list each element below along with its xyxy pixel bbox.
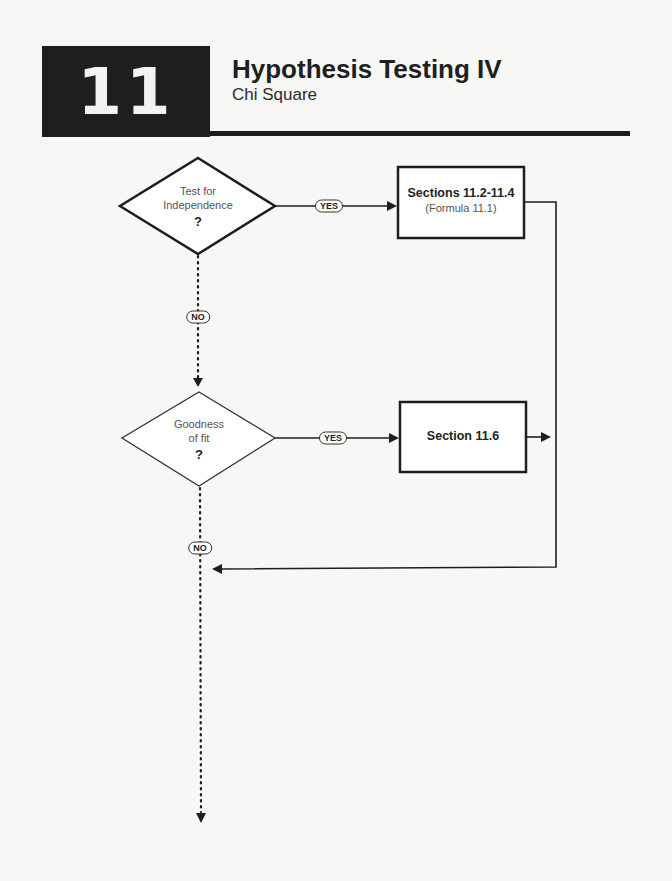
box-sections-11-2-11-4: Sections 11.2-11.4 (Formula 11.1) — [398, 186, 524, 214]
decision-independence-line2: Independence — [163, 199, 233, 211]
edge-label-no-1: NO — [186, 311, 210, 324]
no-arrow-1-head — [193, 378, 203, 387]
box-title: Section 11.6 — [400, 429, 526, 443]
final-arrow-head — [196, 813, 206, 823]
question-mark: ? — [138, 215, 258, 229]
box-title: Sections 11.2-11.4 — [398, 186, 524, 200]
box2-out-arrow-head — [541, 432, 551, 442]
yes-arrow-2-head — [389, 433, 399, 443]
edge-label-no-2: NO — [188, 542, 212, 555]
decision-goodness-line1: Goodness — [174, 418, 224, 430]
yes-arrow-1-head — [387, 201, 397, 211]
no-path-2 — [200, 488, 201, 812]
decision-goodness-of-fit: Goodness of fit ? — [139, 417, 259, 462]
edge-label-yes-2: YES — [319, 432, 347, 445]
edge-label-yes-1: YES — [315, 200, 343, 213]
question-mark: ? — [139, 448, 259, 462]
decision-goodness-line2: of fit — [189, 432, 210, 444]
box1-return-connector — [222, 202, 556, 569]
decision-independence: Test for Independence ? — [138, 184, 258, 229]
box-section-11-6: Section 11.6 — [400, 429, 526, 443]
box-subtitle: (Formula 11.1) — [398, 202, 524, 214]
return-arrow-head — [212, 564, 222, 574]
decision-independence-line1: Test for — [180, 185, 216, 197]
